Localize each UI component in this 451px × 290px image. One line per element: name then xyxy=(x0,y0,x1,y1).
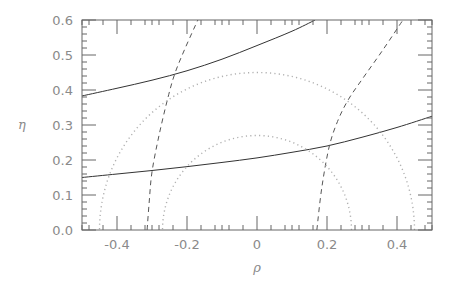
x-tick-labels: -0.4-0.200.20.4 xyxy=(104,237,407,252)
chart: -0.4-0.200.20.4 0.00.10.20.30.40.50.6 ρ … xyxy=(0,0,451,290)
right-dashed-curve xyxy=(317,20,403,230)
y-tick-label: 0.4 xyxy=(52,83,73,98)
x-tick-label: 0 xyxy=(253,237,261,252)
lower-solid-curve xyxy=(82,116,432,177)
y-tick-labels: 0.00.10.20.30.40.50.6 xyxy=(52,13,73,238)
left-dashed-curve xyxy=(147,20,198,230)
axis-ticks xyxy=(82,20,432,230)
y-tick-label: 0.2 xyxy=(52,153,73,168)
y-tick-label: 0.1 xyxy=(52,188,73,203)
x-tick-label: 0.2 xyxy=(317,237,338,252)
y-tick-label: 0.5 xyxy=(52,48,73,63)
plot-curves xyxy=(82,20,432,230)
x-tick-label: 0.4 xyxy=(387,237,408,252)
y-tick-label: 0.6 xyxy=(52,13,73,28)
x-tick-label: -0.2 xyxy=(174,237,199,252)
outer-dotted-circle-curve xyxy=(100,73,415,231)
y-tick-label: 0.0 xyxy=(52,223,73,238)
inner-dotted-circle-curve xyxy=(163,136,352,231)
plot-frame xyxy=(82,20,432,230)
y-axis-label: η xyxy=(18,117,26,132)
x-axis-label: ρ xyxy=(252,260,261,275)
x-tick-label: -0.4 xyxy=(104,237,129,252)
y-tick-label: 0.3 xyxy=(52,118,73,133)
